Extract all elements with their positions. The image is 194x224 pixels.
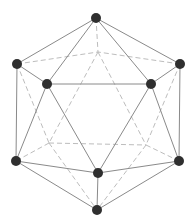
hidden-edge — [96, 18, 98, 52]
hidden-edge — [97, 145, 146, 210]
vertex-Bot — [92, 205, 102, 215]
visible-edge — [96, 18, 180, 64]
vertex-F — [93, 168, 103, 178]
vertex-T — [91, 13, 101, 23]
vertex-BR — [174, 156, 184, 166]
hidden-edge — [17, 52, 98, 64]
visible-edge — [97, 173, 98, 210]
visible-edge — [47, 18, 96, 84]
vertex-IR — [146, 79, 156, 89]
hidden-edge — [98, 52, 146, 145]
visible-edge — [16, 161, 97, 210]
icosahedron-diagram — [0, 0, 194, 224]
visible-edge — [47, 84, 98, 173]
vertex-BL — [11, 156, 21, 166]
visible-edge — [98, 161, 179, 173]
vertex-L — [12, 59, 22, 69]
hidden-edge — [16, 143, 49, 161]
visible-edge — [96, 18, 151, 84]
vertex-IL — [42, 79, 52, 89]
visible-edge — [17, 18, 96, 64]
visible-edge — [179, 64, 180, 161]
visible-edge — [16, 161, 98, 173]
vertex-R — [175, 59, 185, 69]
visible-edge — [98, 84, 151, 173]
visible-edge — [97, 161, 179, 210]
visible-edge — [16, 84, 47, 161]
hidden-edge — [49, 143, 146, 145]
hidden-edge — [49, 143, 97, 210]
hidden-edge — [17, 64, 49, 143]
hidden-edge — [98, 52, 180, 64]
visible-edge — [16, 64, 17, 161]
